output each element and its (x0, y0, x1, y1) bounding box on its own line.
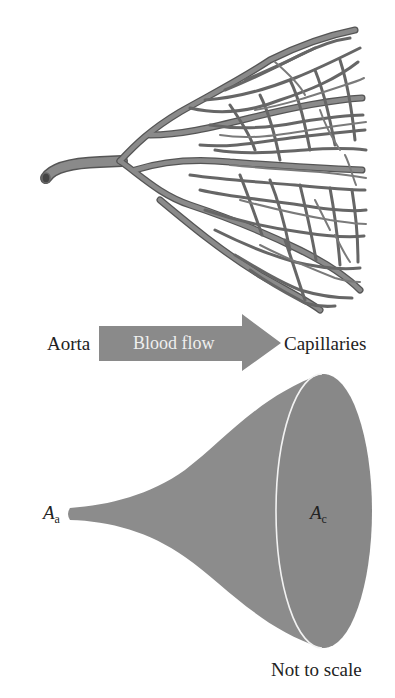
capillaries-label: Capillaries (284, 334, 366, 353)
capillary-area-subscript: c (322, 512, 327, 526)
capillary-area-label: Ac (310, 503, 327, 525)
aorta-area-subscript: a (55, 512, 60, 526)
blood-flow-label: Blood flow (133, 334, 215, 352)
aorta-label: Aorta (47, 334, 90, 353)
vessel-tree-illustration (42, 30, 366, 310)
aorta-area-symbol: A (43, 502, 55, 523)
aorta-area-label: Aa (43, 503, 60, 525)
not-to-scale-note: Not to scale (271, 660, 362, 679)
aorta-trunk (42, 161, 122, 183)
capillary-area-symbol: A (310, 502, 322, 523)
